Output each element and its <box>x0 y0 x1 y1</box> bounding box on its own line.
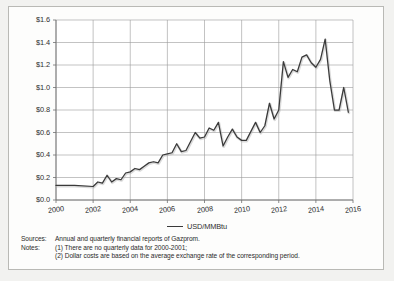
y-axis-tick-label: $0.0 <box>24 195 50 204</box>
y-axis-tick-label: $1.0 <box>24 83 50 92</box>
note-text: (2) Dollar costs are based on the averag… <box>55 252 375 261</box>
chart-frame: $0.0$0.2$0.4$0.6$0.8$1.0$1.2$1.4$1.6 200… <box>8 6 384 270</box>
chart-notes: Sources:Annual and quarterly financial r… <box>9 235 385 261</box>
y-axis-tick-label: $1.6 <box>24 15 50 24</box>
chart-page: $0.0$0.2$0.4$0.6$0.8$1.0$1.2$1.4$1.6 200… <box>0 0 394 281</box>
note-label: Notes: <box>21 244 55 253</box>
y-axis-tick-label: $0.8 <box>24 105 50 114</box>
note-text: Annual and quarterly financial reports o… <box>55 235 375 244</box>
y-axis-tick-label: $0.6 <box>24 128 50 137</box>
y-axis-tick-label: $0.4 <box>24 150 50 159</box>
y-axis-tick-label: $1.4 <box>24 38 50 47</box>
note-row: Sources:Annual and quarterly financial r… <box>21 235 375 244</box>
chart-plot-area: $0.0$0.2$0.4$0.6$0.8$1.0$1.2$1.4$1.6 200… <box>9 7 385 217</box>
note-row: (2) Dollar costs are based on the averag… <box>21 252 375 261</box>
y-axis-tick-label: $0.2 <box>24 173 50 182</box>
note-text: (1) There are no quarterly data for 2000… <box>55 244 375 253</box>
legend-label: USD/MMBtu <box>187 222 227 231</box>
chart-legend: USD/MMBtu <box>9 218 385 234</box>
legend-line-swatch-icon <box>167 226 183 227</box>
note-label: Sources: <box>21 235 55 244</box>
y-axis-tick-label: $1.2 <box>24 60 50 69</box>
line-chart-svg <box>9 7 385 217</box>
note-row: Notes:(1) There are no quarterly data fo… <box>21 244 375 253</box>
